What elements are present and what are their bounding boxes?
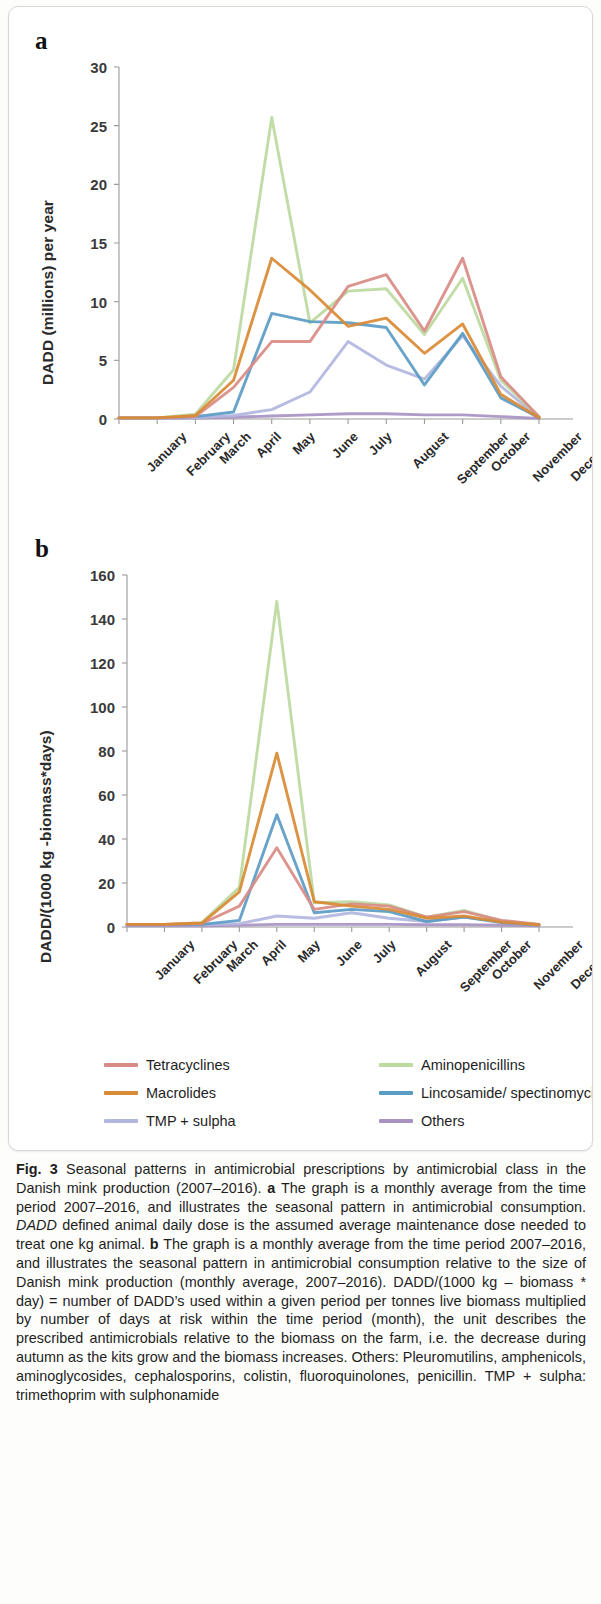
panel-b-plot-area [127, 575, 579, 943]
caption-segment: b [150, 1236, 159, 1252]
legend-label: Others [421, 1113, 465, 1129]
y-tick-label: 120 [9, 656, 115, 671]
y-tick-label: 20 [9, 876, 115, 891]
legend-label: Macrolides [146, 1085, 216, 1101]
y-tick-label: 140 [9, 612, 115, 627]
legend-color-swatch [104, 1091, 138, 1095]
legend-color-swatch [379, 1091, 413, 1095]
y-tick-label: 10 [9, 294, 107, 309]
series-line [127, 753, 539, 925]
series-line [119, 258, 539, 418]
legend-label: Aminopenicillins [421, 1057, 525, 1073]
y-tick-label: 0 [9, 412, 107, 427]
legend-label: Lincosamide/ spectinomycin [421, 1085, 593, 1101]
legend-item[interactable]: Others [379, 1113, 465, 1129]
y-tick-label: 160 [9, 568, 115, 583]
legend-item[interactable]: Lincosamide/ spectinomycin [379, 1085, 593, 1101]
legend-color-swatch [104, 1119, 138, 1123]
caption-segment: Fig. 3 [16, 1161, 58, 1177]
legend-color-swatch [379, 1119, 413, 1123]
y-tick-label: 60 [9, 788, 115, 803]
panel-b-letter: b [35, 535, 49, 563]
legend-color-swatch [379, 1063, 413, 1067]
legend-label: TMP + sulpha [146, 1113, 236, 1129]
series-line [127, 601, 539, 924]
legend-item[interactable]: Aminopenicillins [379, 1057, 525, 1073]
figure-caption: Fig. 3 Seasonal patterns in antimicrobia… [16, 1160, 586, 1404]
legend-item[interactable]: Macrolides [104, 1085, 216, 1101]
caption-segment: DADD [16, 1217, 57, 1233]
legend-label: Tetracyclines [146, 1057, 230, 1073]
y-tick-label: 100 [9, 700, 115, 715]
x-tick-label: August [409, 429, 451, 471]
panel-a: DADD (millions) per year 051015202530 Ja… [9, 55, 593, 505]
series-line [119, 117, 539, 417]
figure-page: a DADD (millions) per year 051015202530 … [0, 0, 601, 1604]
y-tick-label: 30 [9, 60, 107, 75]
y-tick-label: 0 [9, 920, 115, 935]
y-tick-label: 15 [9, 236, 107, 251]
legend-color-swatch [104, 1063, 138, 1067]
chart-legend: TetracyclinesMacrolidesTMP + sulphaAmino… [9, 1057, 592, 1147]
legend-item[interactable]: Tetracyclines [104, 1057, 230, 1073]
caption-segment: The graph is a monthly average from the … [16, 1236, 586, 1402]
series-line [127, 815, 539, 925]
y-tick-label: 5 [9, 353, 107, 368]
y-tick-label: 40 [9, 832, 115, 847]
figure-card: a DADD (millions) per year 051015202530 … [8, 6, 593, 1151]
y-tick-label: 25 [9, 118, 107, 133]
panel-b: DADD/(1000 kg -biomass*days) 02040608010… [9, 563, 593, 1013]
y-tick-label: 80 [9, 744, 115, 759]
y-tick-label: 20 [9, 177, 107, 192]
x-tick-label: August [412, 937, 454, 979]
panel-a-letter: a [35, 27, 48, 55]
panel-a-plot-area [119, 67, 579, 435]
legend-item[interactable]: TMP + sulpha [104, 1113, 236, 1129]
series-line [119, 258, 539, 418]
